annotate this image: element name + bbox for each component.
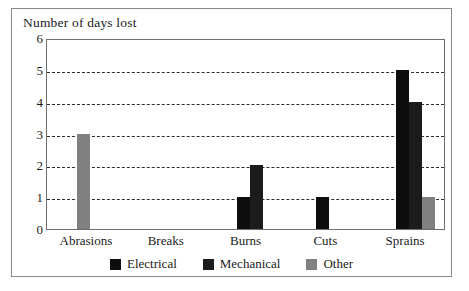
y-tick-label: 6 <box>37 31 44 47</box>
x-tick-label-sprains: Sprains <box>386 233 425 249</box>
legend-item-other[interactable]: Other <box>306 256 353 272</box>
legend-label: Mechanical <box>220 256 281 272</box>
legend-item-mechanical[interactable]: Mechanical <box>203 256 281 272</box>
x-tick-label-breaks: Breaks <box>148 233 184 249</box>
gridline <box>47 104 444 105</box>
y-tick-label: 2 <box>37 158 44 174</box>
x-tick-label-abrasions: Abrasions <box>60 233 113 249</box>
y-tick-label: 0 <box>37 222 44 238</box>
chart-title: Number of days lost <box>23 15 137 31</box>
legend-swatch-icon <box>110 259 121 270</box>
x-tick-label-cuts: Cuts <box>313 233 337 249</box>
y-tick-label: 4 <box>37 95 44 111</box>
y-axis: 0123456 <box>23 39 43 230</box>
chart-figure: Number of days lost 0123456 AbrasionsBre… <box>11 8 452 277</box>
legend-item-electrical[interactable]: Electrical <box>110 256 177 272</box>
bar <box>422 197 435 229</box>
legend-label: Electrical <box>127 256 177 272</box>
legend-swatch-icon <box>306 259 317 270</box>
x-axis: AbrasionsBreaksBurnsCutsSprains <box>46 233 445 253</box>
gridline <box>47 167 444 168</box>
bar <box>409 102 422 229</box>
y-tick-label: 5 <box>37 63 44 79</box>
bar <box>237 197 250 229</box>
legend-swatch-icon <box>203 259 214 270</box>
chart-legend: ElectricalMechanicalOther <box>12 256 451 272</box>
plot-area <box>46 39 445 230</box>
bar <box>250 165 263 229</box>
legend-label: Other <box>323 256 353 272</box>
x-tick-label-burns: Burns <box>230 233 261 249</box>
gridline <box>47 136 444 137</box>
y-tick-label: 3 <box>37 127 44 143</box>
gridline <box>47 72 444 73</box>
bar <box>77 134 90 230</box>
bar <box>316 197 329 229</box>
bar <box>396 70 409 229</box>
y-tick-label: 1 <box>37 190 44 206</box>
